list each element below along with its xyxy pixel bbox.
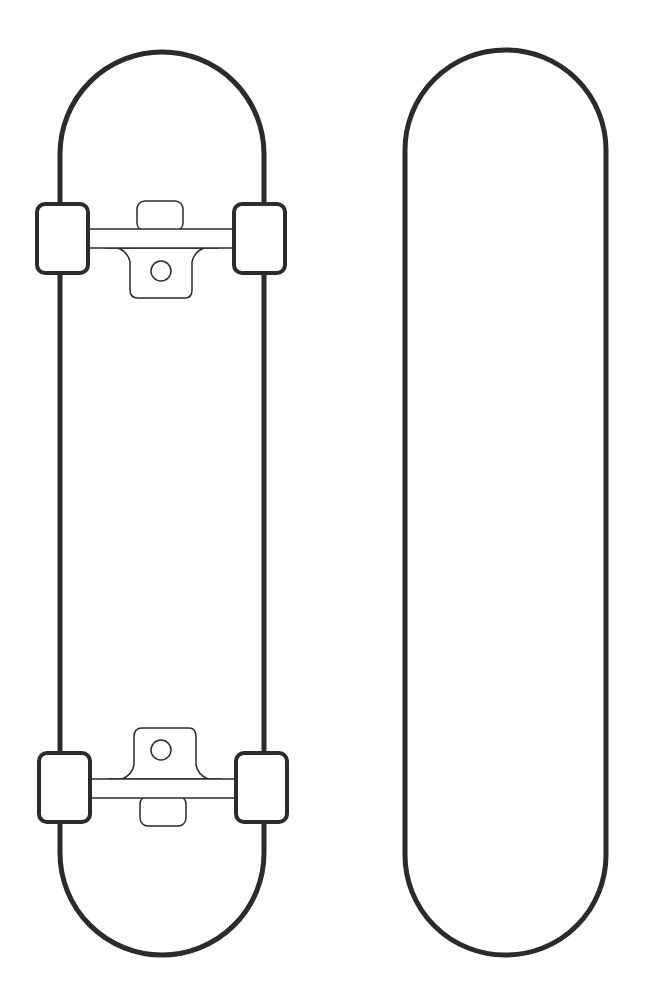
wheel-icon (234, 204, 285, 273)
wheel-icon (236, 753, 287, 822)
right-deck-outline (405, 50, 606, 955)
wheel-icon (39, 753, 90, 822)
skateboard-deck-blank (405, 50, 606, 955)
wheel-icon (37, 204, 88, 273)
skateboard-template (0, 0, 646, 1006)
skateboard-with-trucks (37, 52, 287, 955)
